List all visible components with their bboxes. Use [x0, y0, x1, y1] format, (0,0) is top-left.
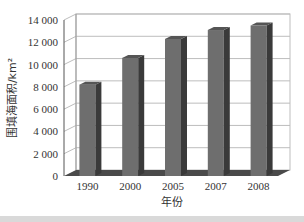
y-tick-labels: 02 0004 0006 0008 00010 00012 00014 000	[28, 14, 59, 182]
y-tick-label: 8 000	[33, 81, 58, 93]
y-tick-label: 12 000	[28, 36, 59, 48]
x-tick-label: 2005	[162, 180, 185, 192]
y-tick-label: 10 000	[28, 59, 59, 71]
bar	[122, 55, 144, 176]
y-tick-label: 2 000	[33, 148, 58, 160]
y-axis-label: 围填海面积/km²	[5, 58, 19, 138]
bar	[79, 82, 101, 176]
bar	[208, 27, 230, 176]
x-tick-label: 1990	[76, 180, 99, 192]
x-tick-labels: 19902000200520072008	[76, 180, 270, 192]
y-tick-label: 0	[53, 170, 59, 182]
x-tick-label: 2000	[119, 180, 142, 192]
y-tick-label: 6 000	[33, 103, 58, 115]
bottom-divider	[0, 216, 304, 222]
bar-chart: 02 0004 0006 0008 00010 00012 00014 000 …	[0, 0, 304, 222]
x-axis-label: 年份	[161, 195, 183, 209]
y-tick-label: 4 000	[33, 125, 58, 137]
y-tick-label: 14 000	[28, 14, 59, 26]
x-tick-label: 2008	[248, 180, 271, 192]
bar	[251, 23, 273, 176]
x-tick-label: 2007	[205, 180, 228, 192]
y-axis	[64, 14, 76, 176]
bar	[165, 36, 187, 176]
